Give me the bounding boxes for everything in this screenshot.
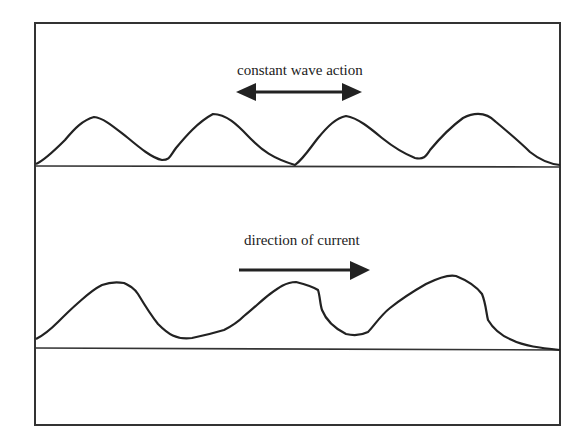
symmetric-ripple-profile <box>36 114 560 165</box>
upper-baseline <box>35 166 560 167</box>
right-arrow-icon <box>239 261 370 280</box>
lower-baseline <box>35 348 560 350</box>
outer-frame <box>35 23 560 425</box>
current-direction-label: direction of current <box>244 232 360 249</box>
wave-action-label: constant wave action <box>237 62 363 79</box>
bidirectional-arrow-icon <box>236 83 362 101</box>
asymmetric-ripple-profile <box>36 275 560 350</box>
